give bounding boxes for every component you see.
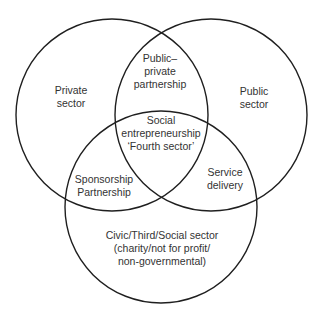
label-line: Service (207, 166, 243, 179)
public-private-partnership-label: Public– private partnership (134, 52, 187, 91)
service-delivery-label: Service delivery (207, 166, 243, 192)
label-line: (charity/not for profit/ (106, 242, 219, 255)
public-sector-label: Public sector (240, 85, 269, 111)
venn-circles (0, 0, 320, 317)
label-line: non-governmental) (106, 255, 219, 268)
civic-sector-label: Civic/Third/Social sector (charity/not f… (106, 229, 219, 268)
label-line: Private (55, 84, 88, 97)
label-line: Civic/Third/Social sector (106, 229, 219, 242)
social-entrepreneurship-label: Social entrepreneurship ‘Fourth sector’ (121, 114, 200, 153)
sponsorship-partnership-label: Sponsorship Partnership (75, 173, 133, 199)
label-line: Public– (134, 52, 187, 65)
label-line: sector (55, 97, 88, 110)
label-line: partnership (134, 78, 187, 91)
label-line: Partnership (75, 186, 133, 199)
label-line: private (134, 65, 187, 78)
label-line: entrepreneurship (121, 127, 200, 140)
venn-diagram: Private sector Public sector Public– pri… (0, 0, 320, 317)
private-sector-label: Private sector (55, 84, 88, 110)
label-line: Public (240, 85, 269, 98)
label-line: ‘Fourth sector’ (121, 140, 200, 153)
label-line: delivery (207, 179, 243, 192)
label-line: Sponsorship (75, 173, 133, 186)
label-line: sector (240, 98, 269, 111)
label-line: Social (121, 114, 200, 127)
